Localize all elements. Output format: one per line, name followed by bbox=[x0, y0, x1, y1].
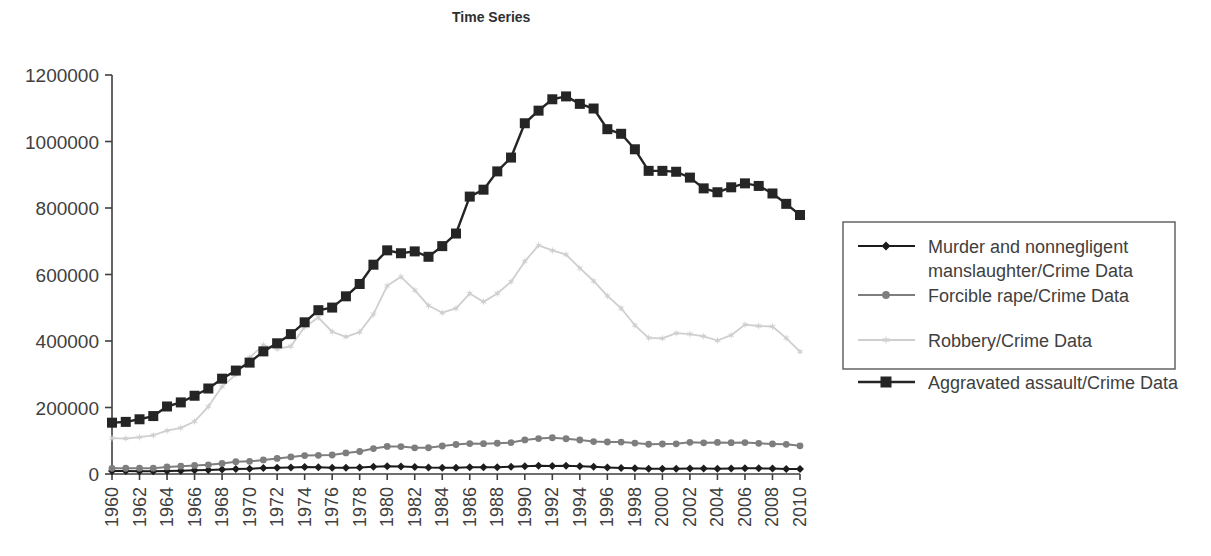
x-tick-label: 1982 bbox=[405, 487, 425, 527]
data-point-marker bbox=[767, 188, 777, 198]
data-point-marker bbox=[370, 445, 377, 452]
data-point-marker bbox=[480, 298, 487, 306]
data-point-marker bbox=[506, 153, 516, 163]
data-point-marker bbox=[548, 462, 556, 470]
data-point-marker bbox=[493, 463, 501, 471]
data-point-marker bbox=[246, 465, 254, 473]
legend-label-line1: Forcible rape/Crime Data bbox=[928, 286, 1130, 306]
data-point-marker bbox=[287, 463, 295, 471]
data-point-marker bbox=[176, 397, 186, 407]
data-point-marker bbox=[713, 465, 721, 473]
data-point-marker bbox=[423, 252, 433, 262]
x-tick-label: 2008 bbox=[762, 487, 782, 527]
x-tick-label: 1978 bbox=[350, 487, 370, 527]
data-point-marker bbox=[355, 279, 365, 289]
data-point-marker bbox=[603, 463, 611, 471]
data-point-marker bbox=[769, 441, 776, 448]
data-point-marker bbox=[881, 377, 892, 388]
y-tick-label: 1200000 bbox=[25, 65, 99, 86]
data-point-marker bbox=[203, 383, 213, 393]
data-point-marker bbox=[109, 465, 116, 472]
x-tick-label: 1998 bbox=[625, 487, 645, 527]
data-point-marker bbox=[300, 317, 310, 327]
data-point-marker bbox=[162, 401, 172, 411]
x-tick-label: 1980 bbox=[377, 487, 397, 527]
data-point-marker bbox=[205, 461, 212, 468]
data-point-marker bbox=[150, 465, 157, 472]
data-point-marker bbox=[411, 463, 419, 471]
data-point-marker bbox=[521, 462, 529, 470]
data-point-marker bbox=[686, 465, 694, 473]
data-point-marker bbox=[520, 118, 530, 128]
x-axis: 1960196219641966196819701972197419761978… bbox=[102, 474, 810, 527]
data-point-marker bbox=[534, 106, 544, 116]
chart-title: Time Series bbox=[452, 9, 531, 25]
data-point-marker bbox=[451, 229, 461, 239]
data-point-marker bbox=[726, 182, 736, 192]
data-point-marker bbox=[714, 439, 721, 446]
series-2 bbox=[109, 241, 804, 442]
data-point-marker bbox=[384, 443, 391, 450]
data-point-marker bbox=[699, 183, 709, 193]
data-point-marker bbox=[561, 91, 571, 101]
y-tick-label: 600000 bbox=[36, 265, 99, 286]
legend-label-line1: Aggravated assault/Crime Data bbox=[928, 373, 1179, 393]
data-point-marker bbox=[177, 463, 184, 470]
x-tick-label: 2004 bbox=[707, 487, 727, 527]
data-point-marker bbox=[398, 443, 405, 450]
data-point-marker bbox=[356, 448, 363, 455]
data-point-marker bbox=[245, 358, 255, 368]
x-tick-label: 2000 bbox=[652, 487, 672, 527]
data-point-marker bbox=[384, 282, 391, 290]
legend-item-3[interactable]: Aggravated assault/Crime Data bbox=[858, 373, 1179, 393]
data-point-marker bbox=[755, 464, 763, 472]
x-tick-label: 2010 bbox=[790, 487, 810, 527]
data-point-marker bbox=[507, 463, 515, 471]
data-point-marker bbox=[260, 457, 267, 464]
data-point-marker bbox=[272, 338, 282, 348]
x-tick-label: 1972 bbox=[267, 487, 287, 527]
data-point-marker bbox=[329, 452, 336, 459]
data-point-marker bbox=[549, 434, 556, 441]
data-point-marker bbox=[437, 241, 447, 251]
data-point-marker bbox=[314, 463, 322, 471]
data-point-marker bbox=[795, 210, 805, 220]
data-point-marker bbox=[508, 439, 515, 446]
data-point-marker bbox=[107, 418, 117, 428]
data-point-marker bbox=[452, 464, 460, 472]
data-point-marker bbox=[411, 444, 418, 451]
data-point-marker bbox=[313, 305, 323, 315]
x-tick-label: 1984 bbox=[432, 487, 452, 527]
data-point-marker bbox=[728, 439, 735, 446]
data-point-marker bbox=[671, 167, 681, 177]
data-point-marker bbox=[369, 463, 377, 471]
data-point-marker bbox=[645, 465, 653, 473]
data-point-marker bbox=[727, 464, 735, 472]
data-point-marker bbox=[301, 463, 309, 471]
data-point-marker bbox=[480, 440, 487, 447]
data-point-marker bbox=[274, 455, 281, 462]
data-point-marker bbox=[562, 462, 570, 470]
data-point-marker bbox=[590, 438, 597, 445]
data-point-marker bbox=[425, 444, 432, 451]
legend-label-line1: Murder and nonnegligent bbox=[928, 237, 1128, 257]
data-point-marker bbox=[217, 374, 227, 384]
data-point-marker bbox=[658, 465, 666, 473]
data-point-marker bbox=[397, 463, 405, 471]
data-point-marker bbox=[755, 440, 762, 447]
data-point-marker bbox=[616, 129, 626, 139]
x-tick-label: 2002 bbox=[680, 487, 700, 527]
data-point-marker bbox=[742, 439, 749, 446]
x-tick-label: 1966 bbox=[185, 487, 205, 527]
series-3 bbox=[107, 91, 805, 427]
data-point-marker bbox=[438, 464, 446, 472]
data-point-marker bbox=[327, 303, 337, 313]
data-point-marker bbox=[783, 441, 790, 448]
data-point-marker bbox=[439, 443, 446, 450]
data-point-marker bbox=[148, 411, 158, 421]
chart-canvas: Time Series 1200000100000080000060000040… bbox=[0, 0, 1211, 556]
data-point-marker bbox=[231, 366, 241, 376]
data-point-marker bbox=[618, 439, 625, 446]
data-point-marker bbox=[644, 166, 654, 176]
y-tick-label: 0 bbox=[88, 464, 99, 485]
